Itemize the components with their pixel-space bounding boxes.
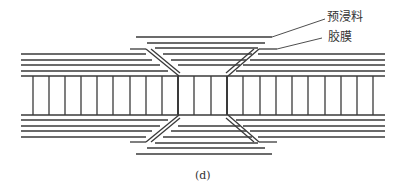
bottom-skin-left (21, 115, 180, 142)
honeycomb-core (21, 76, 385, 115)
leader-adhesive-film (277, 38, 322, 49)
leader-lines (272, 19, 325, 49)
label-adhesive-film: 胶膜 (328, 31, 352, 43)
figure-caption: (d) (195, 170, 211, 181)
bottom-skin-right (226, 115, 385, 142)
sandwich-splice-diagram (0, 0, 403, 190)
top-skin-right (226, 49, 385, 76)
label-prepreg: 预浸料 (327, 11, 363, 23)
leader-prepreg (272, 19, 325, 37)
top-skin-left (21, 49, 180, 76)
